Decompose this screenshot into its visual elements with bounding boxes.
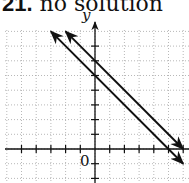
grid: [5, 30, 189, 183]
plotted-lines: [51, 31, 183, 163]
y-axis-label: y: [81, 6, 91, 24]
graph: y 0: [0, 0, 189, 183]
origin-label: 0: [80, 152, 90, 170]
axis-ticks: [22, 46, 184, 178]
line-y-x+5: [51, 31, 183, 163]
